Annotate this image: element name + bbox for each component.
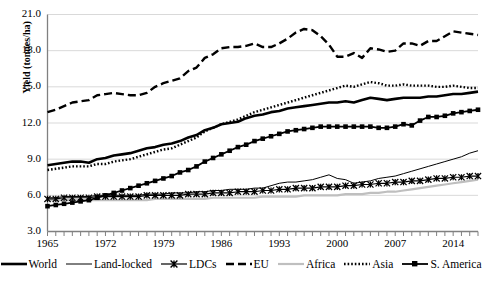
legend-label: Africa [306,258,335,270]
series-marker-s-america [360,124,365,129]
legend-label: S. America [430,258,481,270]
legend-item-s-america[interactable]: S. America [402,258,481,270]
series-line-world [48,92,479,166]
series-marker-s-america [277,132,282,137]
series-marker-s-america [145,181,150,186]
series-marker-s-america [285,129,290,134]
series-marker-s-america [426,115,431,120]
series-marker-s-america [335,124,340,129]
yield-line-chart: Yield (tonnes/ha) 3.06.09.012.015.018.02… [0,0,482,286]
series-marker-s-america [70,200,75,205]
series-marker-s-america [318,124,323,129]
legend-item-eu[interactable]: EU [226,258,269,270]
x-axis-tick-label: 1972 [82,237,128,249]
legend-label: Asia [372,258,393,270]
y-axis-tick-label: 6.0 [7,188,41,200]
series-marker-s-america [393,124,398,129]
series-marker-s-america [294,128,299,133]
legend-item-land-locked[interactable]: Land-locked [66,258,152,270]
series-marker-s-america [169,174,174,179]
series-marker-s-america [443,113,448,118]
series-marker-s-america [385,126,390,131]
y-axis-tick-label: 21.0 [7,7,41,19]
legend-swatch-icon [66,258,92,270]
x-axis-tick-label: 1986 [198,237,244,249]
series-marker-s-america [343,124,348,129]
y-axis-tick-label: 15.0 [7,79,41,91]
series-marker-s-america [418,118,423,123]
series-marker-s-america [211,156,216,161]
y-axis-tick-label: 9.0 [7,152,41,164]
series-marker-s-america [376,126,381,131]
series-marker-s-america [45,204,50,209]
legend-item-africa[interactable]: Africa [278,258,335,270]
legend-item-world[interactable]: World [1,258,57,270]
series-marker-s-america [161,176,166,181]
series-marker-s-america [111,191,116,196]
x-axis-tick-label: 1965 [25,237,71,249]
legend-label: Land-locked [94,258,152,270]
legend-swatch-icon [226,258,252,270]
legend-swatch-icon [161,258,187,270]
series-marker-s-america [95,195,100,200]
series-marker-s-america [260,136,265,141]
y-axis-tick-label: 3.0 [7,224,41,236]
legend-swatch-icon [1,258,27,270]
legend-label: EU [254,258,269,270]
series-marker-s-america [236,145,241,150]
series-line-eu [48,29,479,112]
series-marker-s-america [252,139,257,144]
series-marker-s-america [203,159,208,164]
series-marker-s-america [128,186,133,191]
y-axis-tick-label: 18.0 [7,43,41,55]
x-axis-tick-label: 2000 [314,237,360,249]
legend-label: World [29,258,57,270]
series-marker-s-america [186,168,191,173]
series-marker-s-america [103,193,108,198]
series-marker-s-america [302,127,307,132]
series-marker-s-america [78,199,83,204]
legend-swatch-icon [344,258,370,270]
y-axis-tick-label: 12.0 [7,116,41,128]
legend-label: LDCs [189,258,216,270]
series-marker-s-america [219,152,224,157]
series-marker-s-america [434,115,439,120]
series-marker-s-america [310,126,315,131]
series-marker-s-america [178,170,183,175]
series-marker-s-america [244,142,249,147]
series-marker-s-america [459,110,464,115]
series-marker-s-america [53,203,58,208]
series-marker-s-america [153,179,158,184]
series-marker-s-america [409,123,414,128]
chart-legend: WorldLand-lockedLDCsEUAfricaAsiaS. Ameri… [0,258,482,270]
x-axis-tick-label: 2007 [372,237,418,249]
series-marker-s-america [120,188,125,193]
series-marker-s-america [401,122,406,127]
legend-item-asia[interactable]: Asia [344,258,393,270]
x-axis-tick-label: 1979 [140,237,186,249]
series-marker-s-america [327,124,332,129]
legend-swatch-icon [402,258,428,270]
series-marker-s-america [451,111,456,116]
series-marker-s-america [136,183,141,188]
series-marker-s-america [352,124,357,129]
x-axis-tick-label: 1993 [256,237,302,249]
series-marker-s-america [87,198,92,203]
series-marker-s-america [194,164,199,169]
series-marker-s-america [62,201,67,206]
series-marker-s-america [467,109,472,114]
legend-swatch-icon [278,258,304,270]
x-axis-tick-label: 2014 [430,237,476,249]
series-marker-s-america [476,107,481,112]
legend-item-ldcs[interactable]: LDCs [161,258,216,270]
series-marker-s-america [269,134,274,139]
series-marker-s-america [227,148,232,153]
series-marker-s-america [368,124,373,129]
